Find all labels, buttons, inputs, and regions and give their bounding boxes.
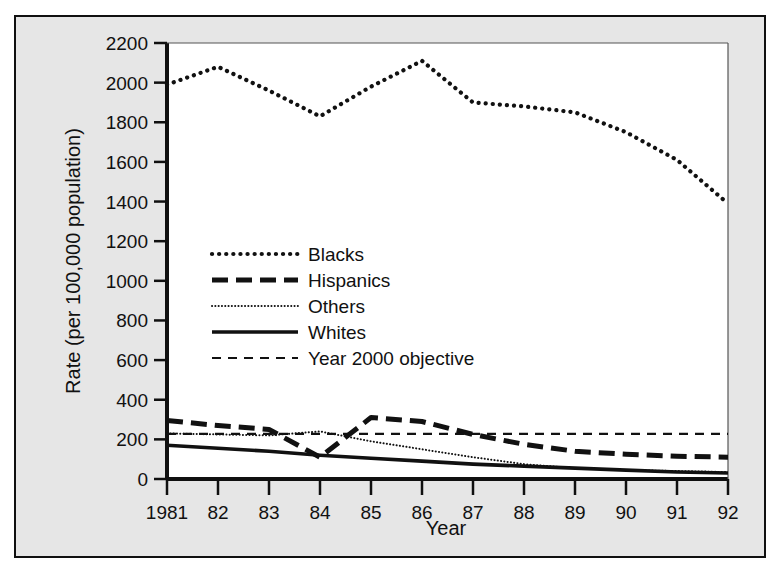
x-tick-label: 92 <box>717 502 738 523</box>
y-tick-label: 0 <box>137 469 148 490</box>
y-tick-label: 400 <box>116 390 148 411</box>
y-tick-label: 800 <box>116 310 148 331</box>
y-tick-label: 200 <box>116 429 148 450</box>
y-tick-label: 1200 <box>106 231 148 252</box>
x-tick-marks <box>167 479 728 495</box>
x-tick-label: 90 <box>615 502 636 523</box>
chart-canvas: 0200400600800100012001400160018002000220… <box>16 17 768 560</box>
figure-panel: 0200400600800100012001400160018002000220… <box>14 15 766 558</box>
y-tick-label: 1400 <box>106 192 148 213</box>
y-tick-label: 2000 <box>106 73 148 94</box>
y-tick-label: 600 <box>116 350 148 371</box>
y-tick-label: 1000 <box>106 271 148 292</box>
x-tick-label: 85 <box>360 502 381 523</box>
x-axis-title: Year <box>426 517 467 539</box>
legend-label-hispanics: Hispanics <box>308 270 390 291</box>
legend-label-year-2000-objective: Year 2000 objective <box>308 348 474 369</box>
x-tick-label: 91 <box>666 502 687 523</box>
x-tick-label: 83 <box>258 502 279 523</box>
legend-label-others: Others <box>308 296 365 317</box>
y-tick-label: 2200 <box>106 33 148 54</box>
y-axis-title: Rate (per 100,000 population) <box>62 128 84 394</box>
y-tick-labels: 0200400600800100012001400160018002000220… <box>106 33 148 490</box>
x-tick-label: 84 <box>309 502 331 523</box>
plot-area-background <box>167 43 728 479</box>
x-tick-label: 1981 <box>146 502 188 523</box>
legend-label-whites: Whites <box>308 322 366 343</box>
x-tick-label: 88 <box>513 502 534 523</box>
y-tick-label: 1800 <box>106 112 148 133</box>
x-tick-label: 82 <box>207 502 228 523</box>
legend-label-blacks: Blacks <box>308 244 364 265</box>
x-tick-label: 89 <box>564 502 585 523</box>
y-tick-label: 1600 <box>106 152 148 173</box>
